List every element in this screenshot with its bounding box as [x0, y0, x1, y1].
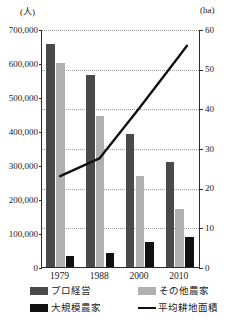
bar-プロ経営-2010: [166, 162, 175, 267]
right-tickmark: [199, 30, 203, 31]
left-tick-label: 100,000: [0, 230, 38, 239]
right-tickmark: [199, 189, 203, 190]
right-tick-label: 10: [205, 224, 239, 233]
left-tickmark: [39, 30, 43, 31]
gridline: [42, 70, 199, 71]
right-axis-unit-label: (ha): [200, 5, 215, 15]
legend-swatch-icon: [138, 307, 156, 309]
legend-label: プロ経営: [51, 286, 91, 296]
legend-label: 平均耕地面積: [158, 303, 218, 313]
legend-swatch-icon: [30, 287, 48, 295]
left-tickmark: [39, 234, 43, 235]
bar-大規模農家-1988: [106, 253, 115, 267]
right-tickmark: [199, 268, 203, 269]
left-tick-label: 600,000: [0, 60, 38, 69]
legend-swatch-icon: [30, 304, 48, 312]
line-平均耕地面積: [60, 46, 187, 176]
right-tickmark: [199, 228, 203, 229]
bar-大規模農家-2000: [145, 242, 154, 267]
right-tick-label: 30: [205, 145, 239, 154]
right-tick-label: 60: [205, 26, 239, 35]
legend-item-4: 平均耕地面積: [138, 303, 218, 313]
right-tick-label: 40: [205, 105, 239, 114]
x-tick-label-2000: 2000: [117, 271, 161, 281]
legend-label: 大規模農家: [51, 303, 101, 313]
gridline: [42, 149, 199, 150]
right-tickmark: [199, 109, 203, 110]
x-tick-label-1988: 1988: [77, 271, 121, 281]
x-tick-label-1979: 1979: [37, 271, 81, 281]
left-tick-label: 400,000: [0, 128, 38, 137]
left-tick-label: 500,000: [0, 94, 38, 103]
left-tickmark: [39, 64, 43, 65]
legend-item-2: その他農家: [138, 286, 209, 296]
bar-プロ経営-1979: [46, 44, 55, 267]
left-tick-label: 300,000: [0, 162, 38, 171]
right-tick-label: 50: [205, 65, 239, 74]
legend-item-1: プロ経営: [30, 286, 91, 296]
left-tickmark: [39, 200, 43, 201]
bar-その他農家-1979: [56, 63, 65, 267]
bar-その他農家-2010: [175, 209, 184, 267]
bar-プロ経営-2000: [126, 134, 135, 267]
chart-figure: (人) (ha) 0100,000200,000300,000400,00050…: [0, 0, 241, 324]
legend-item-3: 大規模農家: [30, 303, 101, 313]
legend-label: その他農家: [159, 286, 209, 296]
plot-area: [41, 30, 200, 268]
left-tickmark: [39, 166, 43, 167]
chart-legend: プロ経営その他農家大規模農家平均耕地面積: [30, 286, 235, 320]
right-tick-label: 20: [205, 184, 239, 193]
left-axis-unit-label: (人): [20, 5, 35, 18]
bar-その他農家-2000: [136, 176, 145, 267]
right-tickmark: [199, 70, 203, 71]
left-tickmark: [39, 98, 43, 99]
bar-その他農家-1988: [96, 116, 105, 267]
left-tickmark: [39, 268, 43, 269]
gridline: [42, 109, 199, 110]
right-tick-label: 0: [205, 264, 239, 273]
gridline: [42, 30, 199, 31]
right-tickmark: [199, 149, 203, 150]
x-tick-label-2010: 2010: [157, 271, 201, 281]
bar-プロ経営-1988: [86, 75, 95, 267]
left-tick-label: 700,000: [0, 26, 38, 35]
gridline: [42, 189, 199, 190]
bar-大規模農家-2010: [185, 237, 194, 267]
left-tick-label: 0: [0, 264, 38, 273]
left-tickmark: [39, 132, 43, 133]
bar-大規模農家-1979: [66, 256, 75, 267]
legend-swatch-icon: [138, 287, 156, 295]
left-tick-label: 200,000: [0, 196, 38, 205]
